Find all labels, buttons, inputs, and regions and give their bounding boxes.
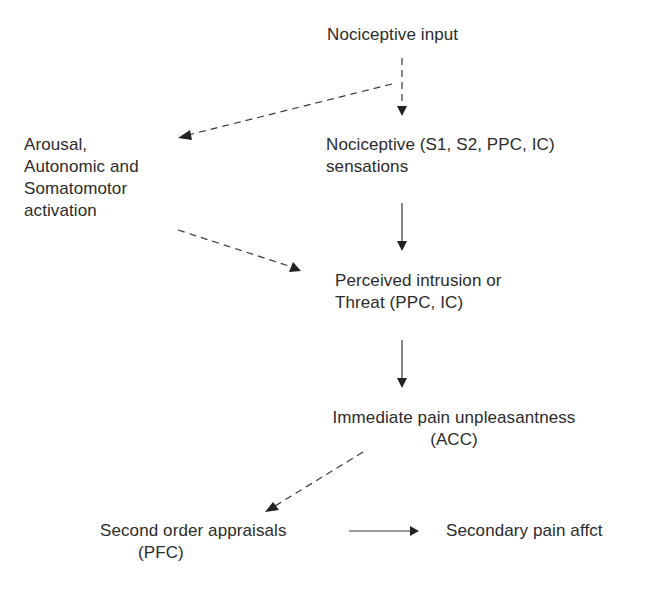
arrow-input-to-sensations [397,58,407,116]
arrow-appraisals-to-affect [349,526,419,536]
arrow-arousal-to-threat [178,230,301,272]
node-label: (ACC) [312,429,596,451]
node-label: Nociceptive input [327,24,458,46]
node-second-order-appraisals: Second order appraisals (PFC) [100,520,287,564]
pain-processing-diagram: Nociceptive input Arousal, Autonomic and… [0,0,654,599]
node-immediate-unpleasantness: Immediate pain unpleasantness (ACC) [312,407,596,451]
node-label: Somatomotor [24,178,139,200]
arrow-input-to-arousal [178,84,392,140]
node-label: Autonomic and [24,156,139,178]
arrow-sensations-to-threat [397,203,407,251]
node-label: Immediate pain unpleasantness [312,407,596,429]
node-nociceptive-input: Nociceptive input [327,24,458,46]
node-secondary-pain-affect: Secondary pain affct [446,520,603,542]
node-label: Arousal, [24,134,139,156]
arrows-layer [0,0,654,599]
arrow-unpleasantness-to-appraisals [265,452,363,512]
node-nociceptive-sensations: Nociceptive (S1, S2, PPC, IC) sensations [326,134,555,178]
node-label: Perceived intrusion or [335,270,502,292]
node-label: sensations [326,156,555,178]
node-label: Nociceptive (S1, S2, PPC, IC) [326,134,555,156]
node-label: Threat (PPC, IC) [335,292,502,314]
node-label: (PFC) [100,542,287,564]
node-arousal-activation: Arousal, Autonomic and Somatomotor activ… [24,134,139,222]
arrow-threat-to-unpleasantness [397,340,407,388]
node-perceived-threat: Perceived intrusion or Threat (PPC, IC) [335,270,502,314]
node-label: Second order appraisals [100,520,287,542]
node-label: activation [24,200,139,222]
node-label: Secondary pain affct [446,520,603,542]
